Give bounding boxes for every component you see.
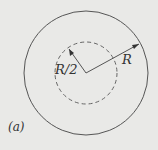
inner-radius-label: R/2: [55, 62, 77, 77]
outer-radius-label: R: [122, 52, 132, 67]
outer-arrowhead-icon: [132, 44, 139, 49]
panel-label: (a): [8, 120, 25, 134]
